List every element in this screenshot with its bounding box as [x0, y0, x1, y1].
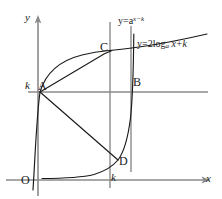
- y-axis-label: y: [25, 12, 30, 23]
- math-figure: y x O k k A B C D y=ax−k y=2loga x+k: [0, 0, 222, 199]
- equation-exponential: y=ax−k: [118, 16, 144, 26]
- point-label-a: A: [38, 80, 47, 92]
- y-axis-tick-label-k: k: [25, 80, 30, 91]
- equation-logarithmic: y=2loga x+k: [137, 39, 187, 50]
- x-axis-tick-label-k: k: [111, 172, 116, 183]
- point-label-b: B: [133, 76, 141, 88]
- point-label-c: C: [100, 41, 108, 53]
- equation-logarithmic-suffix: x+k: [169, 38, 187, 49]
- equation-exponential-base: y=a: [118, 15, 133, 26]
- equation-exponential-exponent: x−k: [133, 15, 144, 23]
- x-axis-label: x: [206, 173, 211, 184]
- point-label-d: D: [119, 155, 128, 167]
- origin-label: O: [21, 174, 30, 186]
- segment-a-to-d: [40, 92, 118, 160]
- equation-logarithmic-prefix: y=2log: [137, 38, 165, 49]
- coordinate-plot: [0, 0, 222, 199]
